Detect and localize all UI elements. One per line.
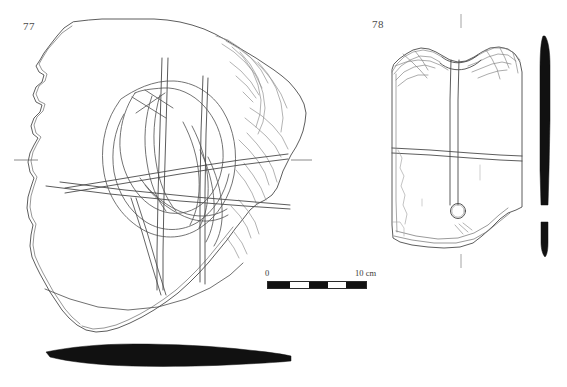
scale-bar: [267, 281, 367, 289]
scale-bar-segment-5: [346, 282, 366, 288]
figure-78-section-profile: [0, 0, 567, 387]
scale-bar-segment-1: [268, 282, 290, 288]
figure-number-77: 77: [23, 20, 35, 32]
section-78-upper: [540, 36, 550, 205]
scale-bar-segment-3: [309, 282, 328, 288]
scale-bar-zero-label: 0: [265, 268, 269, 278]
illustration-plate: 77 78 0 10 cm: [0, 0, 567, 387]
section-78-lower: [541, 222, 548, 257]
scale-bar-segment-4: [328, 282, 347, 288]
scale-bar-max-label: 10 cm: [355, 268, 376, 278]
scale-bar-segment-2: [290, 282, 310, 288]
figure-number-78: 78: [372, 18, 384, 30]
